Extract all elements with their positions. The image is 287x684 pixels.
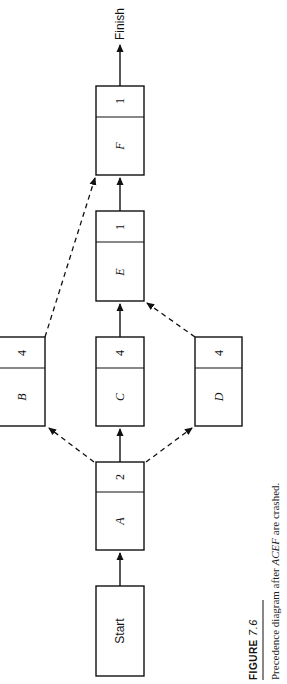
node-start-label: Start — [113, 618, 127, 644]
node-f: 1 F — [96, 86, 144, 175]
node-c-label: C — [113, 392, 127, 401]
node-e-duration: 1 — [113, 224, 127, 230]
caption-text: Precedence diagram after ACEF are crashe… — [269, 482, 281, 680]
node-f-label: F — [113, 142, 127, 151]
edge-d-e — [147, 303, 195, 337]
node-a-label: A — [113, 517, 127, 526]
node-c: 4 C — [96, 337, 144, 426]
edge-b-f — [45, 178, 95, 337]
precedence-diagram: Finish 1 F 1 E 4 B 4 C 4 D 2 A — [0, 0, 287, 684]
edge-a-b — [49, 428, 94, 462]
node-e: 1 E — [96, 211, 144, 301]
figure-number: FIGURE 7.6 — [247, 619, 259, 680]
figure-caption: FIGURE 7.6 Precedence diagram after ACEF… — [247, 482, 281, 680]
node-d: 4 D — [195, 337, 242, 426]
finish-label: Finish — [113, 8, 127, 40]
node-c-duration: 4 — [113, 350, 127, 356]
node-b-duration: 4 — [15, 350, 29, 356]
node-b: 4 B — [0, 337, 45, 426]
node-a: 2 A — [96, 462, 144, 550]
node-a-duration: 2 — [113, 474, 127, 480]
node-b-label: B — [15, 393, 29, 401]
node-e-label: E — [113, 268, 127, 277]
node-d-duration: 4 — [212, 350, 226, 356]
edge-a-d — [146, 428, 192, 462]
node-d-label: D — [212, 392, 226, 402]
node-start: Start — [96, 586, 144, 676]
node-f-duration: 1 — [113, 98, 127, 104]
